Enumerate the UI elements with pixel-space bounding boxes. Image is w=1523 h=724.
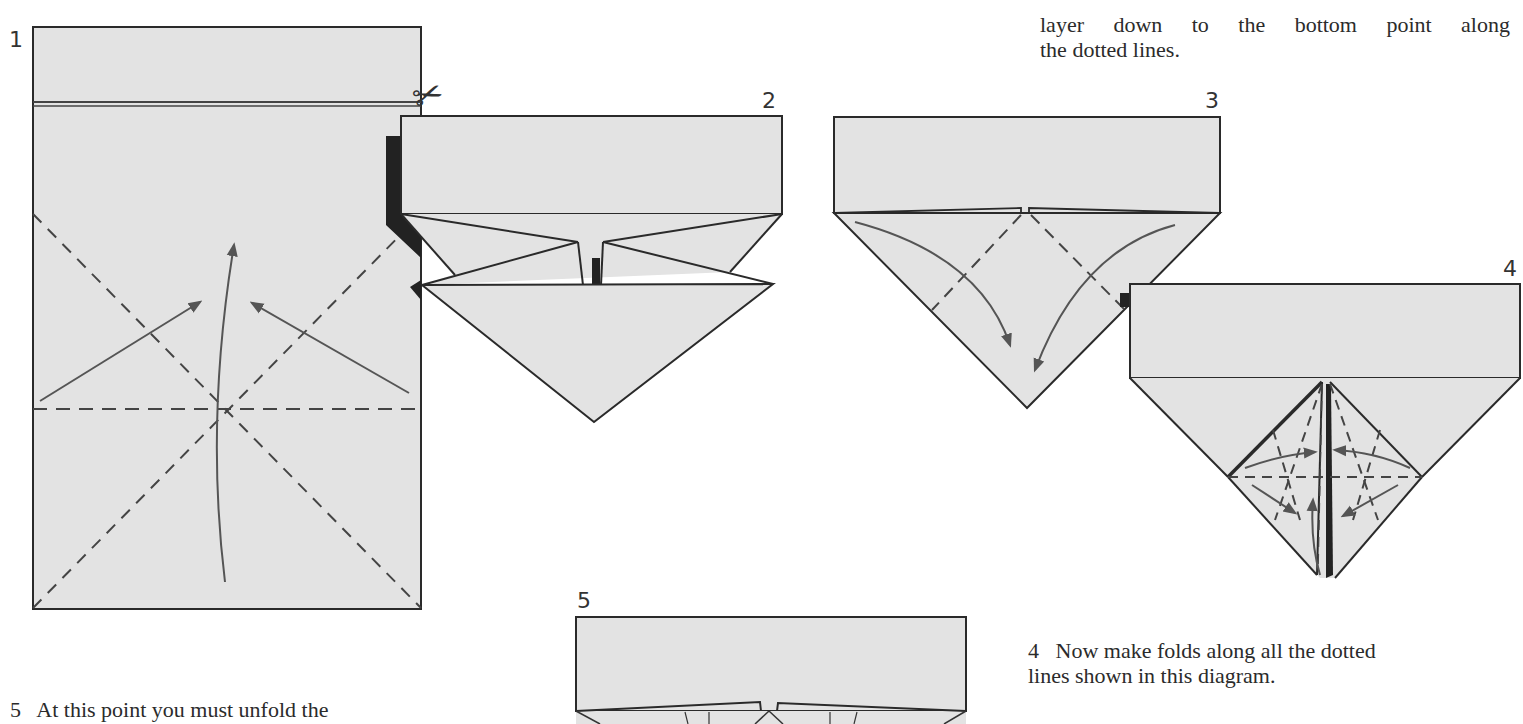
step-number-1: 1: [9, 29, 23, 51]
diagram-5: [576, 617, 966, 724]
diagram-1: [33, 27, 421, 609]
caption-step-5: 5 At this point you must unfold the: [10, 697, 480, 722]
caption-step-4: 4 Now make folds along all the dotted li…: [1028, 638, 1513, 688]
caption-line: 5 At this point you must unfold the: [10, 697, 480, 722]
diagram-2: [401, 116, 782, 422]
step-number-4: 4: [1503, 258, 1517, 280]
step-number-5: 5: [577, 590, 591, 612]
caption-line: lines shown in this diagram.: [1028, 663, 1513, 688]
step-number-2: 2: [762, 90, 776, 112]
step-number-3: 3: [1205, 90, 1219, 112]
diagram-4: [1130, 284, 1520, 578]
caption-line: 4 Now make folds along all the dotted: [1028, 638, 1513, 663]
